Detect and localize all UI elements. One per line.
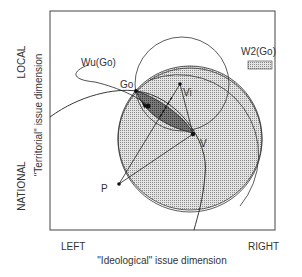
label-go: Go: [120, 79, 134, 90]
point-go: [134, 89, 138, 93]
y-axis-title: "Territorial" issue dimension: [33, 54, 44, 177]
label-p: P: [101, 183, 108, 194]
legend-label: W2(Go): [241, 46, 276, 57]
spatial-voting-diagram: Go Vi V P Wu(Go) W2(Go) LOCAL NATIONAL "…: [0, 0, 302, 277]
point-p: [117, 182, 121, 186]
label-wu-go: Wu(Go): [81, 57, 116, 68]
x-axis-right-label: RIGHT: [248, 241, 279, 252]
ideal-point: [146, 104, 151, 109]
label-v: V: [200, 138, 207, 149]
x-axis-left-label: LEFT: [61, 241, 85, 252]
y-axis-bottom-label: NATIONAL: [16, 161, 27, 211]
point-vi: [178, 82, 182, 86]
point-v: [191, 132, 195, 136]
label-vi: Vi: [183, 87, 192, 98]
x-axis-title: "Ideological" issue dimension: [97, 255, 226, 266]
y-axis-top-label: LOCAL: [16, 45, 27, 78]
legend-swatch: [248, 61, 272, 69]
